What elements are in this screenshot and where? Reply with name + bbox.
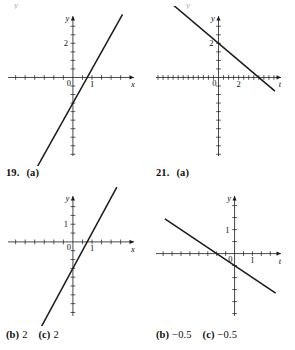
answer-part-label: (b): [156, 329, 169, 340]
x-tick-label: 1: [90, 79, 94, 89]
y-axis-name: y: [65, 13, 70, 23]
origin-label: 0: [67, 78, 71, 88]
y-tick-label: 1: [64, 219, 68, 229]
origin-label: 0: [212, 78, 216, 88]
y-tick-label: 2: [209, 38, 213, 48]
axis-labels: 011ty: [225, 193, 281, 266]
x-axis-name: t: [279, 79, 282, 89]
axis-labels: 012xy: [64, 13, 135, 90]
answer-part-label: (c): [39, 329, 51, 340]
answer-19bc: (b)2(c)2: [6, 329, 59, 340]
answer-part-value: 2: [22, 329, 27, 340]
answer-21bc: (b)−0.5(c)−0.5: [156, 329, 237, 340]
figure-19bc: 011xy: [0, 186, 148, 326]
y-axis-name: y: [210, 13, 215, 23]
data-line: [165, 6, 275, 91]
figure-19a: 012xy: [0, 6, 148, 166]
figure-21a: 022ty: [148, 6, 295, 166]
data-line: [165, 219, 276, 293]
tick-marks: [16, 207, 121, 313]
answer-part-label: (c): [203, 329, 215, 340]
y-tick-label: 2: [64, 38, 68, 48]
answer-part-value: 2: [53, 329, 58, 340]
answer-part-label: (b): [6, 329, 19, 340]
axis-labels: 011xy: [64, 193, 135, 254]
answers-page: yy 012xy 022ty 011xy 011ty 19.(a) 21.(a)…: [0, 0, 295, 350]
axis-labels: 022ty: [209, 13, 282, 90]
x-tick-label: 1: [250, 255, 254, 265]
graph-canvas: 012xy: [0, 6, 148, 166]
x-axis-name: x: [130, 79, 135, 89]
origin-label: 0: [228, 254, 232, 264]
data-series-group: [165, 219, 276, 293]
caption-part: (a): [26, 167, 39, 178]
y-axis-name: y: [65, 193, 70, 203]
answer-part-value: −0.5: [218, 329, 237, 340]
figure-21bc: 011ty: [148, 186, 295, 326]
x-axis-name: t: [279, 256, 282, 266]
tick-marks: [158, 26, 274, 154]
y-axis-name: y: [226, 193, 231, 203]
x-tick-label: 1: [90, 243, 94, 253]
answer-part-value: −0.5: [172, 329, 191, 340]
graph-canvas: 011ty: [148, 186, 295, 326]
graph-canvas: 022ty: [148, 6, 295, 166]
caption-19a: 19.(a): [6, 167, 39, 178]
y-tick-label: 1: [225, 225, 229, 235]
x-axis-name: x: [130, 244, 135, 254]
axes: [8, 196, 134, 316]
caption-number: 19.: [6, 167, 19, 178]
caption-part: (a): [176, 167, 189, 178]
caption-21a: 21.(a): [156, 167, 189, 178]
graph-canvas: 011xy: [0, 186, 148, 326]
caption-number: 21.: [156, 167, 169, 178]
axes: [156, 196, 281, 316]
x-tick-label: 2: [237, 79, 241, 89]
origin-label: 0: [67, 242, 71, 252]
data-series-group: [165, 6, 275, 91]
